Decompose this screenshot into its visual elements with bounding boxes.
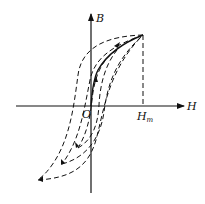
h-max-label: Hm xyxy=(136,110,154,124)
arrow-icon xyxy=(38,176,43,182)
h-axis-label: H xyxy=(186,100,197,113)
b-axis-label: B xyxy=(95,12,104,25)
hysteresis-diagram: B H O Hm xyxy=(0,0,205,204)
origin-label: O xyxy=(82,108,91,121)
